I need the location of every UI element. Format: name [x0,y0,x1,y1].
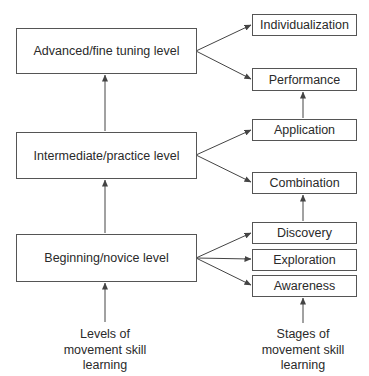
level-box-beginning: Beginning/novice level [16,234,197,282]
caption-levels-line-3: learning [55,358,155,374]
stage-label-discovery: Discovery [277,226,332,240]
stage-label-exploration: Exploration [273,253,336,267]
level-label-intermediate: Intermediate/practice level [34,149,180,163]
stage-label-awareness: Awareness [274,279,336,293]
caption-stages: Stages of movement skill learning [253,327,353,374]
stage-box-individualization: Individualization [252,14,357,36]
stage-label-combination: Combination [269,176,339,190]
caption-stages-line-3: learning [253,358,353,374]
stage-box-exploration: Exploration [252,249,357,271]
stage-label-application: Application [274,123,335,137]
level-label-advanced: Advanced/fine tuning level [34,44,180,58]
movement-skill-learning-diagram: Advanced/fine tuning level Intermediate/… [0,0,369,376]
level-box-intermediate: Intermediate/practice level [16,132,197,179]
stage-label-individualization: Individualization [260,18,349,32]
stage-box-performance: Performance [252,68,357,91]
stage-box-combination: Combination [252,172,357,194]
stage-box-application: Application [252,119,357,141]
caption-levels-line-1: Levels of [55,327,155,343]
caption-levels: Levels of movement skill learning [55,327,155,374]
level-box-advanced: Advanced/fine tuning level [16,28,197,74]
caption-stages-line-1: Stages of [253,327,353,343]
stage-box-awareness: Awareness [252,275,357,297]
caption-stages-line-2: movement skill [253,343,353,359]
stage-box-discovery: Discovery [252,222,357,244]
caption-levels-line-2: movement skill [55,343,155,359]
level-label-beginning: Beginning/novice level [44,251,168,265]
stage-label-performance: Performance [269,73,341,87]
